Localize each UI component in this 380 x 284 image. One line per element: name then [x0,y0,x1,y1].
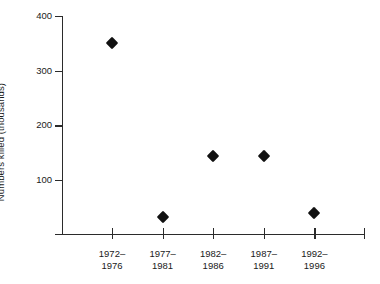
y-tick-label-400: 400 [12,11,52,21]
data-point-5 [308,207,321,220]
plot-area: 400 300 200 100 1972– 1976 1977– 1981 19… [0,0,380,284]
data-point-4 [257,150,270,163]
x-tick-1 [112,228,113,239]
y-tick-label-300: 300 [12,66,52,76]
x-tick-label-5-line2: 1996 [284,260,344,272]
x-tick-4 [264,228,265,239]
x-tick-label-5: 1992– 1996 [284,248,344,271]
x-tick-5 [314,228,315,239]
x-tick-end [364,228,365,239]
y-tick-label-200: 200 [12,120,52,130]
y-tick-0 [55,234,63,235]
data-point-1 [106,37,119,50]
data-point-3 [207,150,220,163]
y-tick-400 [55,16,63,17]
y-tick-label-100: 100 [12,175,52,185]
y-tick-300 [55,71,63,72]
data-point-2 [156,211,169,224]
y-tick-100 [55,180,63,181]
x-tick-3 [213,228,214,239]
x-tick-label-5-line1: 1992– [284,248,344,260]
x-tick-2 [163,228,164,239]
y-tick-200 [55,125,63,126]
scatter-chart: Numbers killed (thousands) 400 300 200 1… [0,0,380,284]
